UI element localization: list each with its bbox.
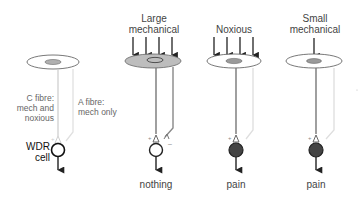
a-fibre [66,69,73,141]
synapse-c [233,135,239,142]
receptive-spot [45,60,61,65]
receptive-spot-active [307,59,322,64]
projection-cell [150,144,163,157]
c-fibre-label: C fibre: mech and noxious [14,93,54,123]
output-label-pain: pain [307,179,326,190]
svg-text:–: – [168,140,172,147]
wdr-cell-label-line: WDR [14,141,50,152]
svg-text:+: + [228,135,232,141]
receptive-spot [147,57,163,62]
a-fibre-label-line: mech only [78,107,117,117]
svg-text:+: + [308,135,312,141]
receptive-spot-active [226,58,242,63]
c-fibre-label-line: noxious [14,113,54,123]
a-fibre [165,67,173,137]
wdr-cell-label-line: cell [14,152,50,163]
synapse-c [55,136,61,143]
stimulus-label-large-mechanical: Large mechanical [129,13,180,35]
panel-small-mechanical: + [286,38,358,170]
wdr-cell-label: WDR cell [14,141,50,163]
wdr-cell [52,144,65,157]
a-fibre-label: A fibre: mech only [78,97,117,117]
panel-large-mechanical: + – [125,37,181,170]
projection-cell-active [309,143,323,157]
c-fibre-label-line: C fibre: [14,93,54,103]
stimulus-label-small-mechanical: Small mechanical [290,13,341,35]
a-fibre [326,68,334,139]
synapse-c [313,135,319,142]
projection-cell-active [229,143,243,157]
c-fibre-label-line: mech and [14,103,54,113]
a-fibre [246,68,253,139]
stimulus-label-line: Small [290,13,341,24]
stimulus-label-noxious: Noxious [216,24,252,35]
stimulus-label-line: mechanical [290,24,341,35]
stimulus-label-line: Large [129,13,180,24]
a-fibre-label-line: A fibre: [78,97,117,107]
svg-text:+: + [148,135,152,141]
output-label-pain: pain [227,179,246,190]
stimulus-label-line: mechanical [129,24,180,35]
panel-noxious: + [207,37,261,170]
stimulus-label-line: Noxious [216,24,252,35]
synapse-c [153,135,159,142]
svg-text:+: + [51,136,55,142]
output-label-nothing: nothing [140,179,173,190]
